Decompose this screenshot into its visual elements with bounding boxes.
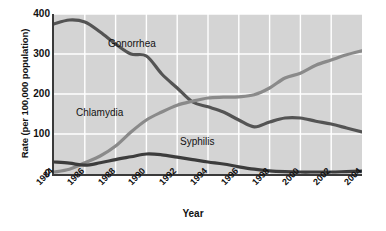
x-axis-title: Year — [0, 208, 386, 219]
y-tick-300: 300 — [24, 49, 50, 59]
plot-svg — [54, 14, 362, 174]
y-tick-100: 100 — [24, 129, 50, 139]
y-tick-400: 400 — [24, 9, 50, 19]
series-label-gonorrhea: Gonorrhea — [108, 38, 156, 49]
y-tick-200: 200 — [24, 89, 50, 99]
y-axis-ticks: 400 300 200 100 0 — [20, 0, 50, 231]
series-label-chlamydia: Chlamydia — [76, 107, 123, 118]
std-rates-line-chart: Rate (per 100,000 population) 400 300 20… — [0, 0, 386, 231]
series-label-syphilis: Syphilis — [180, 136, 214, 147]
grid-lines — [54, 14, 362, 174]
plot-area: Gonorrhea Chlamydia Syphilis — [52, 14, 362, 176]
